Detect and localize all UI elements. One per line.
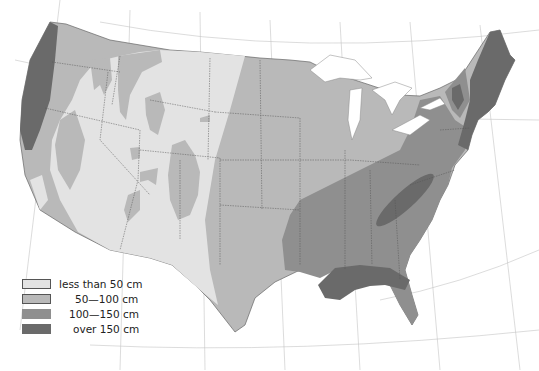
legend-swatch bbox=[22, 309, 51, 319]
legend-item-100-150: 100—150 cm bbox=[22, 306, 155, 321]
legend-label: less than 50 cm bbox=[59, 278, 139, 290]
legend-item-50-100: 50—100 cm bbox=[22, 291, 155, 306]
legend-item-over-150: over 150 cm bbox=[22, 321, 155, 336]
legend-label: over 150 cm bbox=[59, 323, 153, 335]
legend-swatch bbox=[22, 279, 51, 289]
legend-swatch bbox=[22, 324, 51, 334]
legend-item-less-than-50: less than 50 cm bbox=[22, 276, 155, 291]
legend-label: 100—150 cm bbox=[59, 308, 149, 320]
precipitation-map: less than 50 cm 50—100 cm 100—150 cm ove… bbox=[0, 0, 539, 371]
legend-label: 50—100 cm bbox=[59, 293, 155, 305]
legend: less than 50 cm 50—100 cm 100—150 cm ove… bbox=[22, 276, 155, 336]
legend-swatch bbox=[22, 294, 51, 304]
